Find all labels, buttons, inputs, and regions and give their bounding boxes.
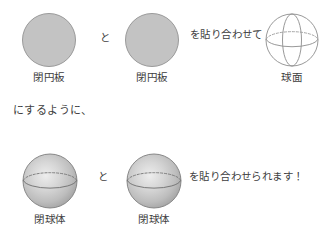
connector-top: と bbox=[100, 33, 110, 44]
middle-sentence: にするように、 bbox=[13, 105, 93, 116]
caption-disk-left: 閉円板 bbox=[0, 73, 98, 84]
caption-ball-right: 閉球体 bbox=[104, 215, 204, 226]
caption-ball-left: 閉球体 bbox=[0, 215, 100, 226]
connector-bottom: と bbox=[98, 172, 108, 183]
closed-ball-icon bbox=[20, 151, 80, 211]
caption-sphere-surface: 球面 bbox=[243, 73, 330, 84]
phrase-glue-bottom: を貼り合わせられます！ bbox=[189, 172, 303, 183]
shape-sphere-surface bbox=[263, 11, 321, 69]
closed-disk-icon bbox=[21, 12, 77, 68]
shape-disk-right bbox=[124, 12, 180, 68]
closed-ball-icon bbox=[124, 151, 184, 211]
illustration-canvas: 閉円板 と 閉円板 を貼り合わせて 球面 にするように、 bbox=[0, 0, 330, 247]
phrase-glue-top: を貼り合わせて bbox=[190, 30, 263, 41]
shape-disk-left bbox=[21, 12, 77, 68]
closed-disk-icon bbox=[124, 12, 180, 68]
shape-ball-right bbox=[124, 151, 184, 211]
shape-ball-left bbox=[20, 151, 80, 211]
sphere-surface-icon bbox=[263, 11, 321, 69]
caption-disk-right: 閉円板 bbox=[103, 73, 201, 84]
